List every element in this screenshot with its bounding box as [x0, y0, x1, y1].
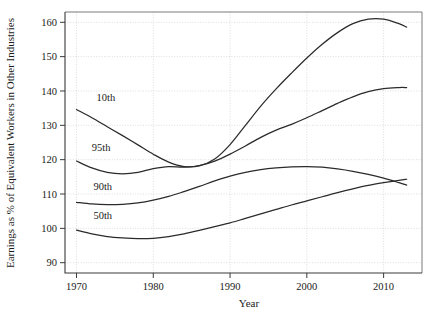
y-tick-label: 120	[41, 154, 57, 165]
series-label-50th: 50th	[93, 210, 112, 221]
y-tick-label: 110	[42, 189, 57, 200]
series-label-95th: 95th	[92, 142, 111, 153]
line-chart: 9010011012013014015016019701980199020002…	[0, 0, 433, 315]
y-tick-label: 90	[47, 257, 58, 268]
y-tick-label: 140	[41, 86, 57, 97]
plot-frame	[65, 12, 422, 273]
series-line-50th	[77, 179, 407, 238]
x-tick-label: 1970	[66, 281, 87, 292]
series-label-10th: 10th	[96, 92, 115, 103]
x-tick-label: 2010	[373, 281, 394, 292]
y-axis-title: Earnings as % of Equivalent Workers in O…	[4, 18, 16, 268]
y-tick-label: 150	[41, 51, 57, 62]
series-labels: 10th95th90th50th	[92, 92, 116, 221]
y-tick-label: 130	[41, 120, 57, 131]
x-axis-title: Year	[239, 297, 260, 309]
axis-tick-labels: 9010011012013014015016019701980199020002…	[41, 17, 394, 292]
series-lines	[77, 19, 407, 239]
series-line-10th	[77, 19, 407, 167]
grid-lines	[65, 12, 422, 273]
x-tick-label: 2000	[296, 281, 317, 292]
y-tick-label: 160	[41, 17, 57, 28]
series-label-90th: 90th	[93, 181, 112, 192]
series-line-90th	[77, 167, 407, 205]
x-tick-label: 1990	[220, 281, 241, 292]
chart-figure: 9010011012013014015016019701980199020002…	[0, 0, 433, 315]
x-tick-label: 1980	[143, 281, 164, 292]
y-tick-label: 100	[41, 223, 57, 234]
